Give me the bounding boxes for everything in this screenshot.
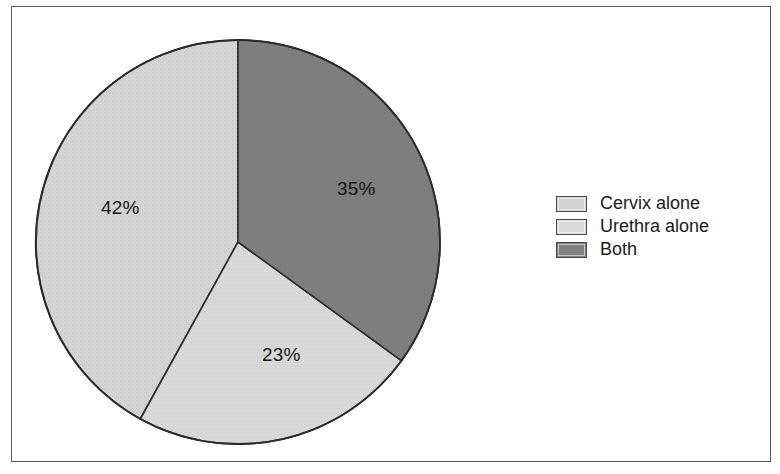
legend-label-urethra-alone: Urethra alone bbox=[600, 217, 709, 236]
slice-data-label-both: 35% bbox=[337, 178, 376, 200]
legend-swatch-both bbox=[556, 242, 587, 258]
legend-item-both: Both bbox=[556, 238, 756, 261]
legend-label-cervix-alone: Cervix alone bbox=[600, 194, 700, 213]
legend-swatch-urethra-alone bbox=[556, 219, 587, 235]
legend-item-urethra-alone: Urethra alone bbox=[556, 215, 756, 238]
chart-legend: Cervix alone Urethra alone Both bbox=[556, 192, 756, 261]
slice-data-label-urethra-alone: 23% bbox=[262, 344, 301, 366]
figure-root: 35% 23% 42% Cervix alone Urethra alone B… bbox=[0, 0, 780, 474]
legend-item-cervix-alone: Cervix alone bbox=[556, 192, 756, 215]
pie-chart: 35% 23% 42% Cervix alone Urethra alone B… bbox=[0, 0, 780, 474]
slice-data-label-cervix-alone: 42% bbox=[101, 197, 140, 219]
legend-label-both: Both bbox=[600, 240, 637, 259]
legend-swatch-cervix-alone bbox=[556, 196, 587, 212]
